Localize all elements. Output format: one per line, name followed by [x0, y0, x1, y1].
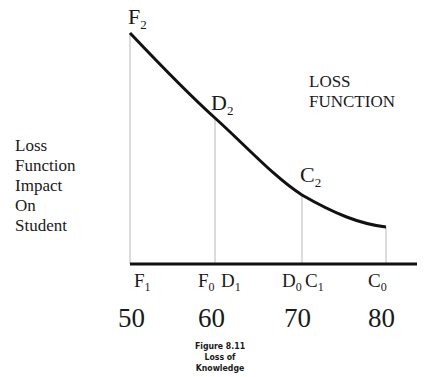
title-line-2: FUNCTION	[309, 92, 395, 112]
axis-label-d0: D0	[282, 271, 302, 293]
x-tick-60: 60	[198, 305, 225, 332]
y-label-line: On	[15, 196, 75, 216]
diagram-title: LOSS FUNCTION	[309, 72, 395, 112]
y-axis-label: Loss Function Impact On Student	[15, 136, 75, 236]
caption-title: Loss of Knowledge	[179, 351, 261, 373]
loss-function-diagram: F2 D2 C2 LOSS FUNCTION Loss Function Imp…	[0, 0, 425, 377]
loss-curve	[130, 33, 386, 227]
title-line-1: LOSS	[309, 72, 395, 92]
axis-label-c0: C0	[368, 271, 387, 293]
figure-caption: Figure 8.11 Loss of Knowledge	[179, 340, 261, 373]
point-label-d2: D2	[211, 92, 233, 117]
y-label-line: Loss	[15, 136, 75, 156]
point-label-f2: F2	[128, 6, 147, 31]
x-tick-50: 50	[118, 305, 145, 332]
axis-label-d1: D1	[221, 271, 241, 293]
axis-label-f1: F1	[134, 271, 151, 293]
y-label-line: Function	[15, 156, 75, 176]
x-tick-70: 70	[284, 305, 311, 332]
y-label-line: Impact	[15, 176, 75, 196]
axis-label-c1: C1	[305, 271, 324, 293]
y-label-line: Student	[15, 216, 75, 236]
x-tick-80: 80	[368, 305, 395, 332]
caption-figure-number: Figure 8.11	[179, 340, 261, 351]
point-label-c2: C2	[300, 164, 321, 189]
axis-label-f0: F0	[198, 271, 215, 293]
